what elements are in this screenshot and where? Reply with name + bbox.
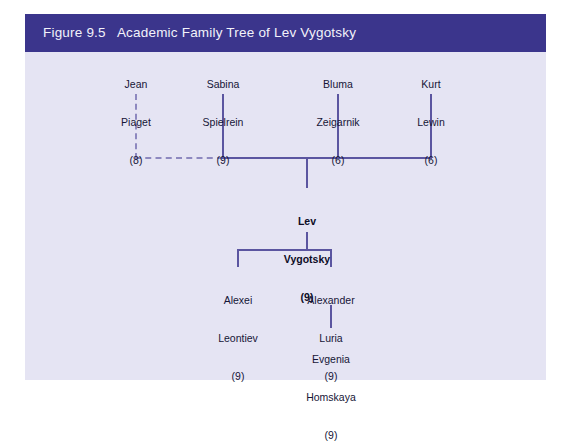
figure-title-bar: Figure 9.5 Academic Family Tree of Lev V…	[25, 14, 546, 52]
tree-node-sabina-spielrein[interactable]: Sabina Spielrein (9)	[168, 53, 278, 192]
family-tree-diagram: Jean Piaget (8) Sabina Spielrein (9) Blu…	[25, 52, 546, 380]
node-name-line1: Alexander	[276, 294, 386, 307]
node-name-line2: Homskaya	[276, 391, 386, 404]
figure-panel: Figure 9.5 Academic Family Tree of Lev V…	[25, 14, 546, 380]
node-generation: (9)	[276, 429, 386, 442]
tree-node-evgenia-homskaya[interactable]: Evgenia Homskaya (9)	[276, 328, 386, 445]
node-generation: (9)	[168, 154, 278, 167]
node-generation: (6)	[376, 154, 486, 167]
node-name-line2: Vygotsky	[252, 253, 362, 266]
node-name-line1: Lev	[252, 215, 362, 228]
connector-bus-to-leontiev	[237, 249, 239, 267]
node-name-line1: Kurt	[376, 78, 486, 91]
node-name-line2: Spielrein	[168, 116, 278, 129]
node-name-line1: Sabina	[168, 78, 278, 91]
figure-title: Figure 9.5 Academic Family Tree of Lev V…	[43, 25, 356, 40]
node-name-line1: Evgenia	[276, 353, 386, 366]
node-name-line2: Lewin	[376, 116, 486, 129]
tree-node-kurt-lewin[interactable]: Kurt Lewin (6)	[376, 53, 486, 192]
